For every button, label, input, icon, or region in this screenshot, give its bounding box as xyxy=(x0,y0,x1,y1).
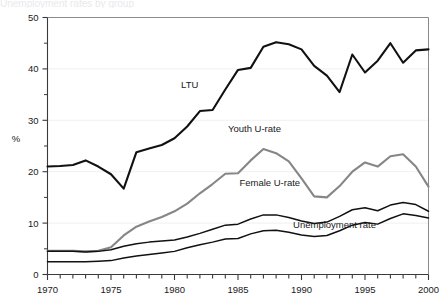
gridlines xyxy=(48,18,429,224)
x-tick-label: 1975 xyxy=(100,284,121,295)
y-tick-label: 0 xyxy=(33,269,38,280)
series-label-unemployment-rate: Unemployment rate xyxy=(293,219,376,230)
x-tick-label: 1970 xyxy=(37,284,58,295)
plot-frame xyxy=(48,18,429,275)
chart-canvas: 01020304050 1970197519801985199019952000… xyxy=(0,0,441,307)
series-label-youth-u-rate: Youth U-rate xyxy=(228,123,281,134)
x-tick-label: 1990 xyxy=(291,284,312,295)
y-axis: 01020304050 xyxy=(28,12,48,280)
series-line-ltu xyxy=(48,42,429,188)
y-tick-label: 10 xyxy=(28,218,39,229)
y-tick-label: 30 xyxy=(28,115,39,126)
x-tick-label: 1980 xyxy=(164,284,185,295)
series-label-ltu: LTU xyxy=(181,79,198,90)
y-tick-label: 20 xyxy=(28,166,39,177)
y-tick-label: 40 xyxy=(28,63,39,74)
x-axis: 1970197519801985199019952000 xyxy=(37,275,439,295)
x-tick-label: 2000 xyxy=(418,284,439,295)
x-tick-label: 1995 xyxy=(354,284,375,295)
series-line-youth-u-rate xyxy=(48,149,429,251)
x-tick-label: 1985 xyxy=(227,284,248,295)
y-axis-title: % xyxy=(12,133,21,144)
line-chart: 01020304050 1970197519801985199019952000… xyxy=(0,0,441,307)
y-tick-label: 50 xyxy=(28,12,39,23)
series-label-female-u-rate: Female U-rate xyxy=(239,177,300,188)
